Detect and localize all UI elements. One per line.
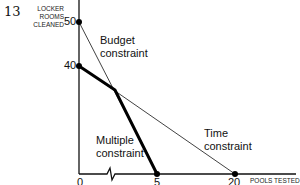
label-line: Budget [100, 34, 148, 47]
multiple-constraint-label: Multiple constraint [96, 134, 144, 160]
label-line: Time [204, 127, 252, 140]
x-axis [79, 168, 296, 180]
point-y40 [76, 63, 82, 69]
point-y50 [76, 19, 82, 25]
time-constraint-label: Time constraint [204, 127, 252, 153]
point-x5 [154, 171, 160, 177]
point-x20 [232, 171, 238, 177]
chart-plot [0, 0, 300, 185]
label-line: constraint [204, 140, 252, 153]
label-line: constraint [100, 47, 148, 60]
label-line: constraint [96, 147, 144, 160]
label-line: Multiple [96, 134, 144, 147]
budget-constraint-label: Budget constraint [100, 34, 148, 60]
